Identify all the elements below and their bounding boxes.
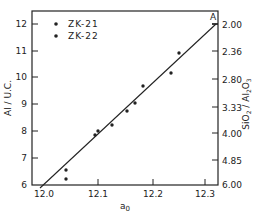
chart-canvas: 12 11 10 9 8 7 6 2.00 2.36 2.80 3.33 4.0… <box>0 0 263 214</box>
x-axis-ticks <box>98 179 205 185</box>
x-tick-12.2: 12.2 <box>143 189 163 199</box>
data-point <box>110 123 113 126</box>
data-point <box>125 109 128 112</box>
x-axis-tick-labels: 12.0 12.1 12.2 12.3 <box>34 189 215 199</box>
legend-label-zk22: ZK-22 <box>68 31 99 41</box>
y-tick-10: 10 <box>16 72 28 82</box>
series-zk22 <box>64 51 180 180</box>
y2-tick-4.00: 4.00 <box>222 129 242 139</box>
data-point <box>64 177 67 180</box>
legend-label-zk21: ZK-21 <box>68 19 99 29</box>
y-tick-11: 11 <box>16 46 27 56</box>
y2-tick-4.85: 4.85 <box>222 156 242 166</box>
x-tick-12.3: 12.3 <box>195 189 215 199</box>
legend: ZK-21 ZK-22 <box>54 19 99 41</box>
y-tick-12: 12 <box>16 19 27 29</box>
y-tick-8: 8 <box>21 126 27 136</box>
data-point <box>177 51 180 54</box>
y2-axis-ticks <box>212 24 218 160</box>
fit-line <box>40 24 216 188</box>
point-a-label: A <box>210 12 217 22</box>
x-tick-12.0: 12.0 <box>34 189 54 199</box>
y-tick-9: 9 <box>21 99 27 109</box>
series-zk21 <box>64 71 172 171</box>
legend-marker-zk21 <box>54 22 58 26</box>
y-axis-title: Al / U.C. <box>3 80 13 116</box>
y2-axis-title: SiO2 / Al2O3 <box>241 78 252 129</box>
y2-tick-3.33: 3.33 <box>222 103 242 113</box>
data-point <box>64 168 67 171</box>
legend-marker-zk22 <box>54 34 58 38</box>
data-point <box>141 84 144 87</box>
y-axis-ticks <box>32 24 38 158</box>
y-axis-tick-labels: 12 11 10 9 8 7 6 <box>16 19 28 190</box>
x-axis-title: a0 <box>120 201 130 213</box>
y2-tick-2.36: 2.36 <box>222 47 242 57</box>
x-tick-12.1: 12.1 <box>88 189 108 199</box>
y-tick-6: 6 <box>21 180 27 190</box>
data-point <box>96 129 99 132</box>
data-point <box>133 101 136 104</box>
data-point <box>169 71 172 74</box>
plot-frame <box>32 11 218 185</box>
y2-tick-6.00: 6.00 <box>222 180 242 190</box>
y2-axis-tick-labels: 2.00 2.36 2.80 3.33 4.00 4.85 6.00 <box>222 20 242 190</box>
y2-tick-2.00: 2.00 <box>222 20 242 30</box>
y-tick-7: 7 <box>21 153 27 163</box>
y2-tick-2.80: 2.80 <box>222 75 242 85</box>
data-point <box>93 133 96 136</box>
